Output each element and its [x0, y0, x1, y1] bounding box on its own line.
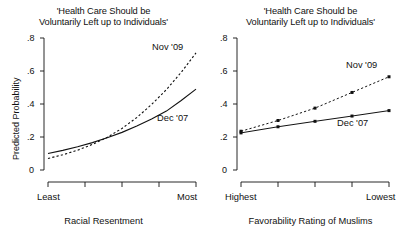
panel-left-series-label-nov09: Nov '09	[152, 42, 183, 52]
panel-right-xtick-label-highest: Highest	[225, 192, 257, 202]
data-point-marker	[277, 125, 280, 128]
data-point-marker	[388, 75, 391, 78]
chart-panel-left: 'Health Care Should be Voluntarily Left …	[0, 0, 207, 238]
data-point-marker	[351, 91, 354, 94]
panel-left-ytick-label-04: .4	[27, 99, 35, 109]
data-point-marker	[314, 107, 317, 110]
panel-left-xtick-label-least: Least	[37, 192, 60, 202]
panel-right-xtick-label-lowest: Lowest	[366, 192, 395, 202]
panel-right-ytick-label-02: .2	[220, 132, 228, 142]
panel-left-ytick-label-08: .8	[27, 33, 35, 43]
panel-left-ytick-label-02: .2	[27, 132, 35, 142]
data-point-marker	[240, 130, 243, 133]
data-point-marker	[277, 119, 280, 122]
data-point-marker	[388, 109, 391, 112]
chart-panel-right: 'Health Care Should be Voluntarily Left …	[207, 0, 414, 238]
panel-right-ytick-label-06: .6	[220, 66, 228, 76]
panel-right-x-axis-label: Favorability Rating of Muslims	[207, 216, 414, 226]
panel-right-ytick-label-0: 0	[222, 165, 227, 175]
panel-left-x-axis-label: Racial Resentment	[0, 216, 207, 226]
panel-right-series-label-dec07: Dec '07	[337, 118, 368, 128]
panel-left-ytick-label-0: 0	[29, 165, 34, 175]
figure-container: 'Health Care Should be Voluntarily Left …	[0, 0, 414, 238]
panel-right-series-label-nov09: Nov '09	[346, 60, 377, 70]
data-point-marker	[314, 120, 317, 123]
panel-left-xtick-label-most: Most	[177, 192, 197, 202]
panel-left-series-label-dec07: Dec '07	[157, 113, 188, 123]
panel-left-ytick-label-06: .6	[27, 66, 35, 76]
panel-right-ytick-label-08: .8	[220, 33, 228, 43]
panel-right-ytick-label-04: .4	[220, 99, 228, 109]
panel-right-plot-area	[207, 0, 414, 238]
